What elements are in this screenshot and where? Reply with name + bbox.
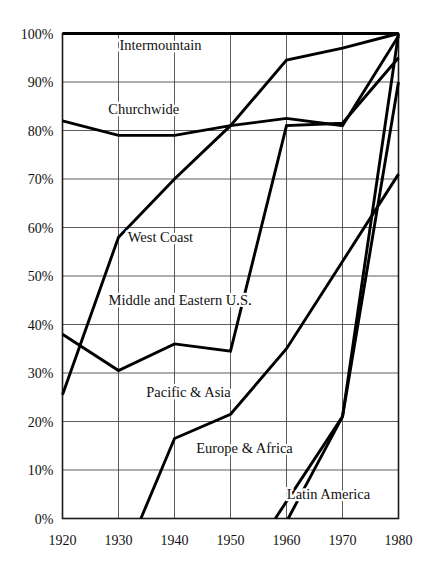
- series-label-middle-and-eastern-u-s: Middle and Eastern U.S.: [109, 292, 252, 308]
- series-label-latin-america: Latin America: [287, 486, 371, 502]
- series-line-pacific-asia: [141, 174, 399, 518]
- chart-container: 0%10%20%30%40%50%60%70%80%90%100%1920193…: [0, 0, 437, 576]
- y-axis-tick-label: 100%: [21, 27, 54, 42]
- series-label-intermountain: Intermountain: [119, 37, 202, 53]
- y-axis-tick-label: 70%: [28, 172, 54, 187]
- y-axis-tick-label: 80%: [28, 124, 54, 139]
- x-axis-tick-label: 1920: [49, 533, 77, 548]
- x-axis-tick-label: 1970: [329, 533, 357, 548]
- series-label-pacific-asia: Pacific & Asia: [146, 384, 231, 400]
- y-axis-tick-label: 50%: [28, 269, 54, 284]
- x-axis-tick-label: 1930: [105, 533, 133, 548]
- series-label-west-coast: West Coast: [128, 229, 193, 245]
- series-line-europe-africa: [275, 82, 398, 519]
- series-label-churchwide: Churchwide: [108, 101, 179, 117]
- y-axis-tick-label: 90%: [28, 75, 54, 90]
- line-chart: 0%10%20%30%40%50%60%70%80%90%100%1920193…: [0, 0, 437, 576]
- y-axis-tick-label: 30%: [28, 366, 54, 381]
- y-axis-tick-label: 60%: [28, 221, 54, 236]
- y-axis-tick-label: 40%: [28, 318, 54, 333]
- x-axis-tick-label: 1940: [161, 533, 189, 548]
- series-label-europe-africa: Europe & Africa: [196, 440, 293, 456]
- x-axis-tick-label: 1980: [385, 533, 413, 548]
- x-axis-tick-label: 1950: [217, 533, 245, 548]
- y-axis-tick-label: 10%: [28, 463, 54, 478]
- x-axis-tick-label: 1960: [273, 533, 301, 548]
- y-axis-tick-label: 0%: [35, 512, 54, 527]
- y-axis-tick-label: 20%: [28, 415, 54, 430]
